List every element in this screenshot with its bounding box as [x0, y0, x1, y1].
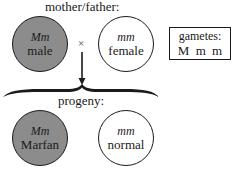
genotype-label: Mm [31, 125, 50, 138]
progeny-marfan-circle: Mm Marfan [12, 110, 68, 166]
progeny-normal-circle: mm normal [98, 110, 154, 166]
phenotype-label: Marfan [21, 138, 59, 152]
progeny-label: progeny: [58, 94, 104, 108]
phenotype-label: normal [108, 138, 145, 152]
genotype-label: mm [117, 125, 134, 138]
down-arrow-icon [79, 52, 86, 85]
